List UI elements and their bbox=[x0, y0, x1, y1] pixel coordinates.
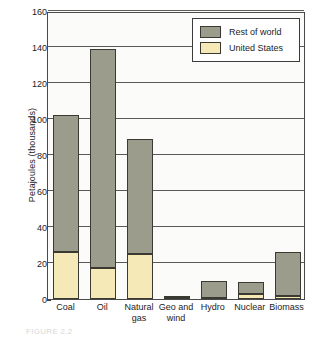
x-axis-tick-label-line: Biomass bbox=[268, 302, 305, 313]
legend-swatch-icon bbox=[200, 42, 221, 54]
legend-item: United States bbox=[200, 40, 293, 56]
gridline bbox=[48, 190, 304, 191]
bar-natural-gas bbox=[127, 139, 153, 299]
bar-biomass bbox=[275, 252, 301, 299]
x-axis-tick-label: Coal bbox=[47, 302, 84, 313]
x-axis-tick-label: Oil bbox=[84, 302, 121, 313]
gridline bbox=[48, 10, 304, 11]
y-axis-tick-mark bbox=[47, 300, 51, 301]
gridline bbox=[48, 154, 304, 155]
y-axis-tick-label: 20 bbox=[9, 259, 47, 269]
y-axis-tick-layer: 020406080100120140160 bbox=[0, 12, 47, 300]
bar-segment-united-states bbox=[127, 254, 153, 299]
x-axis-tick-label-line: Natural bbox=[121, 302, 158, 313]
x-axis-tick-label: Hydro bbox=[194, 302, 231, 313]
x-axis-tick-label-line: Nuclear bbox=[231, 302, 268, 313]
y-axis-tick-label: 120 bbox=[9, 79, 47, 89]
gridline bbox=[48, 226, 304, 227]
x-axis-tick-label: Geo andwind bbox=[158, 302, 195, 323]
legend-swatch-icon bbox=[200, 26, 221, 38]
chart-legend: Rest of worldUnited States bbox=[192, 18, 300, 62]
legend-item-label: United States bbox=[229, 43, 283, 53]
bar-segment-rest-of-world bbox=[127, 139, 153, 254]
bar-segment-rest-of-world bbox=[275, 252, 301, 296]
x-axis-tick-label-line: Hydro bbox=[194, 302, 231, 313]
x-axis-tick-label-line: Coal bbox=[47, 302, 84, 313]
x-axis-tick-label-line: Geo and bbox=[158, 302, 195, 313]
bar-segment-united-states bbox=[53, 252, 79, 299]
y-axis-tick-label: 140 bbox=[9, 43, 47, 53]
y-axis-tick-label: 80 bbox=[9, 151, 47, 161]
bar-segment-rest-of-world bbox=[90, 49, 116, 269]
x-axis-tick-label: Nuclear bbox=[231, 302, 268, 313]
y-axis-tick-label: 0 bbox=[9, 295, 47, 305]
bar-segment-united-states bbox=[238, 294, 264, 299]
gridline bbox=[48, 82, 304, 83]
y-axis-tick-label: 160 bbox=[9, 7, 47, 17]
bar-segment-rest-of-world bbox=[164, 296, 190, 298]
y-axis-tick-label: 40 bbox=[9, 223, 47, 233]
figure-caption: FIGURE 2.2 bbox=[26, 327, 306, 336]
y-axis-tick-label: 100 bbox=[9, 115, 47, 125]
x-axis-tick-label: Biomass bbox=[268, 302, 305, 313]
bar-segment-rest-of-world bbox=[201, 281, 227, 298]
x-axis-tick-label-line: wind bbox=[158, 313, 195, 324]
bar-coal bbox=[53, 115, 79, 299]
gridline bbox=[48, 118, 304, 119]
gridline bbox=[48, 262, 304, 263]
bar-nuclear bbox=[238, 282, 264, 299]
x-axis-tick-label-line: gas bbox=[121, 313, 158, 324]
figure-container: Petajoules (thousands) 02040608010012014… bbox=[0, 0, 318, 337]
bar-geo-and-wind bbox=[164, 296, 190, 299]
bar-segment-rest-of-world bbox=[238, 282, 264, 294]
x-axis-tick-label-line: Oil bbox=[84, 302, 121, 313]
bar-hydro bbox=[201, 281, 227, 299]
bar-oil bbox=[90, 49, 116, 299]
y-axis-tick-label: 60 bbox=[9, 187, 47, 197]
x-axis-tick-label: Naturalgas bbox=[121, 302, 158, 323]
legend-item: Rest of world bbox=[200, 24, 293, 40]
bar-segment-united-states bbox=[275, 296, 301, 299]
bar-segment-rest-of-world bbox=[53, 115, 79, 252]
bar-segment-united-states bbox=[90, 268, 116, 299]
legend-item-label: Rest of world bbox=[229, 27, 282, 37]
